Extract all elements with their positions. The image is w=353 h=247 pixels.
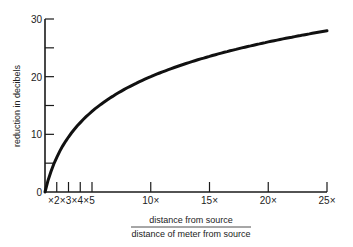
x-tick-label: ×4 [72,195,84,206]
x-tick-label: 20× [260,195,277,206]
y-tick-label: 20 [31,72,43,83]
x-tick-label: 10× [142,195,159,206]
reduction-chart: 0102030 ×2×3×4×510×15×20×25× reduction i… [0,0,353,247]
y-tick-label: 0 [36,187,42,198]
x-axis-ticks: ×2×3×4×510×15×20×25× [48,182,336,206]
reduction-curve [45,31,327,192]
x-tick-label: 25× [319,195,336,206]
y-tick-label: 10 [31,129,43,140]
x-axis-label-numerator: distance from source [149,215,233,225]
x-tick-label: ×5 [83,195,95,206]
y-axis-label: reduction in decibels [12,64,22,147]
axes [45,19,327,192]
x-tick-label: ×2 [48,195,60,206]
x-tick-label: ×3 [60,195,72,206]
y-tick-label: 30 [31,14,43,25]
x-tick-label: 15× [201,195,218,206]
x-axis-label-denominator: distance of meter from source [131,229,250,239]
